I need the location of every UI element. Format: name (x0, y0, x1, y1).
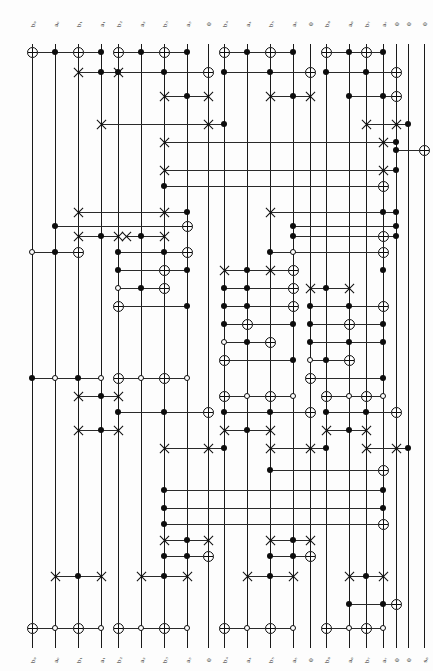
gate-node-xor (391, 67, 402, 78)
gate-node-ctrl (290, 223, 296, 229)
gate-node-swap (320, 424, 333, 437)
gate-connector (270, 212, 396, 213)
wire-w14 (326, 44, 327, 648)
gate-node-ctrl (161, 505, 167, 511)
gate-connector (326, 412, 396, 413)
gate-connector (349, 96, 396, 97)
wire-label-bottom-w12: a₅ (290, 649, 298, 671)
wire-label-top-w12: a₅ (290, 13, 298, 35)
gate-node-xor (27, 623, 38, 634)
gate-node-swap (304, 534, 317, 547)
gate-node-swap (112, 390, 125, 403)
gate-connector (118, 306, 187, 307)
gate-node-ctrl (307, 303, 313, 309)
wire-label-top-w19: 0 (405, 13, 413, 35)
gate-connector (164, 186, 383, 187)
gate-node-swap (343, 570, 356, 583)
gate-node-swap (218, 264, 231, 277)
gate-node-swap (304, 90, 317, 103)
wire-label-bottom-w15: a₆ (346, 649, 354, 671)
gate-node-xor (159, 283, 170, 294)
gate-node-ctrl (380, 339, 386, 345)
gate-node-xor (288, 301, 299, 312)
gate-node-ctrl (184, 267, 190, 273)
gate-node-ctrl (307, 321, 313, 327)
gate-node-swap (304, 442, 317, 455)
wire-label-bottom-w13: 0 (307, 649, 315, 671)
gate-node-xor (159, 47, 170, 58)
gate-node-ctrl (98, 49, 104, 55)
gate-node-ctrl (323, 69, 329, 75)
gate-connector (32, 52, 101, 53)
gate-connector (164, 524, 383, 525)
gate-node-ctrl (380, 267, 386, 273)
gate-node-ctrl (115, 409, 121, 415)
gate-node-ctrl (98, 233, 104, 239)
wire-label-top-w6: b₃ (161, 13, 169, 35)
gate-node-swap (360, 442, 373, 455)
gate-node-ctrl (380, 375, 386, 381)
gate-connector (224, 52, 293, 53)
gate-node-ctrl (221, 321, 227, 327)
gate-connector (270, 470, 383, 471)
gate-node-ctrl (184, 553, 190, 559)
gate-node-ctrl (138, 285, 144, 291)
gate-node-ctrl (380, 321, 386, 327)
gate-node-ctrl (115, 69, 121, 75)
wire-label-top-w2: b₁ (75, 13, 83, 35)
wire-label-bottom-w16: b₇ (363, 649, 371, 671)
gate-connector (326, 628, 383, 629)
wire-label-bottom-w17: a₇ (380, 649, 388, 671)
gate-node-ctrl (244, 267, 250, 273)
wire-label-bottom-w4: b₂ (115, 649, 123, 671)
wire-label-top-w10: a₄ (244, 13, 252, 35)
gate-node-swap (264, 442, 277, 455)
wire-label-top-w5: a₂ (138, 13, 146, 35)
gate-node-octrl (184, 375, 190, 381)
gate-node-ctrl (290, 321, 296, 327)
wire-label-top-w9: b₄ (221, 13, 229, 35)
gate-node-xor (391, 599, 402, 610)
gate-node-swap (377, 136, 390, 149)
gate-node-ctrl (323, 445, 329, 451)
gate-node-ctrl (290, 49, 296, 55)
gate-node-ctrl (138, 233, 144, 239)
gate-node-swap (343, 282, 356, 295)
gate-connector (55, 226, 187, 227)
gate-node-xor (219, 391, 230, 402)
gate-node-ctrl (393, 147, 399, 153)
gate-node-xor (378, 465, 389, 476)
wire-w20 (424, 44, 425, 648)
gate-node-swap (158, 534, 171, 547)
gate-node-swap (390, 118, 403, 131)
gate-node-ctrl (221, 285, 227, 291)
gate-node-swap (72, 206, 85, 219)
gate-connector (164, 508, 383, 509)
gate-connector (164, 142, 396, 143)
wire-label-top-w20: 0 (421, 13, 429, 35)
wire-w1 (55, 44, 56, 648)
gate-node-xor (73, 623, 84, 634)
gate-node-swap (158, 442, 171, 455)
gate-node-ctrl (52, 223, 58, 229)
gate-connector (224, 324, 293, 325)
gate-node-swap (377, 570, 390, 583)
gate-node-xor (305, 407, 316, 418)
gate-node-ctrl (161, 487, 167, 493)
gate-node-ctrl (363, 409, 369, 415)
gate-node-ctrl (184, 537, 190, 543)
gate-node-ctrl (307, 339, 313, 345)
gate-node-ctrl (221, 121, 227, 127)
gate-node-xor (113, 373, 124, 384)
gate-node-swap (158, 164, 171, 177)
gate-node-xor (265, 337, 276, 348)
gate-node-swap (264, 534, 277, 547)
wire-label-bottom-w14: b₆ (323, 649, 331, 671)
wire-label-bottom-w7: a₃ (184, 649, 192, 671)
gate-node-swap (120, 230, 133, 243)
wire-label-top-w17: a₇ (380, 13, 388, 35)
wire-w0 (32, 44, 33, 648)
gate-connector (32, 378, 101, 379)
gate-node-xor (305, 373, 316, 384)
wire-w4 (118, 44, 119, 648)
